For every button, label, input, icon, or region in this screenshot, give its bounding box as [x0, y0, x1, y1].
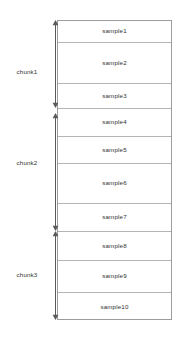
sample-row: sample8 — [58, 232, 171, 261]
sample-row-label: sample6 — [102, 180, 126, 186]
chunk-label: chunk3 — [4, 272, 50, 278]
double-headed-arrow-icon — [49, 231, 62, 320]
sample-row-label: sample3 — [102, 93, 126, 99]
sample-row-label: sample4 — [102, 119, 126, 125]
double-headed-arrow-icon — [49, 113, 62, 231]
sample-row: sample1 — [58, 21, 171, 43]
sample-row-label: sample10 — [100, 304, 128, 310]
sample-row: sample6 — [58, 164, 171, 204]
chunk-label: chunk1 — [4, 69, 50, 75]
sample-row: sample3 — [58, 84, 171, 109]
sample-row-label: sample5 — [102, 147, 126, 153]
chunk-range-arrow — [49, 231, 62, 320]
chunk-range-arrow — [49, 113, 62, 231]
sample-row: sample10 — [58, 293, 171, 321]
sample-row-label: sample7 — [102, 214, 126, 220]
sample-row-label: sample8 — [102, 243, 126, 249]
chunk-label: chunk2 — [4, 160, 50, 166]
chunk-range-arrow — [49, 20, 62, 108]
chunk-sample-diagram: sample1 sample2 sample3 sample4 sample5 … — [0, 0, 184, 341]
sample-row-label: sample1 — [102, 28, 126, 34]
sample-row: sample4 — [58, 109, 171, 137]
sample-stack: sample1 sample2 sample3 sample4 sample5 … — [57, 20, 172, 320]
sample-row-label: sample2 — [102, 60, 126, 66]
sample-row: sample5 — [58, 137, 171, 164]
sample-row: sample2 — [58, 43, 171, 84]
sample-row: sample9 — [58, 261, 171, 293]
double-headed-arrow-icon — [49, 20, 62, 108]
sample-row: sample7 — [58, 204, 171, 232]
sample-row-label: sample9 — [102, 273, 126, 279]
